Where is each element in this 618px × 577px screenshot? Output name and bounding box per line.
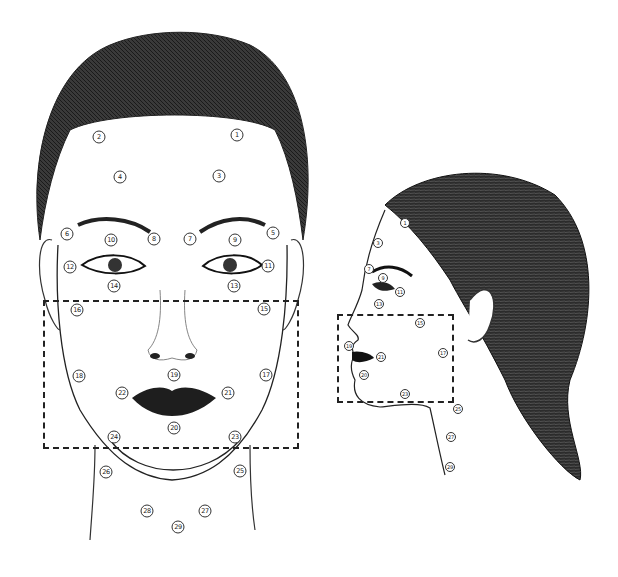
profile-point-9[interactable]: 9 — [378, 273, 388, 283]
front-point-12[interactable]: 12 — [64, 261, 77, 274]
profile-point-17[interactable]: 17 — [438, 348, 448, 358]
profile-lower-face-zone — [337, 314, 454, 403]
front-point-17[interactable]: 17 — [260, 369, 273, 382]
front-point-14[interactable]: 14 — [108, 280, 121, 293]
profile-point-11[interactable]: 11 — [395, 287, 405, 297]
front-point-26[interactable]: 26 — [100, 466, 113, 479]
front-point-28[interactable]: 28 — [141, 505, 154, 518]
front-point-11[interactable]: 11 — [262, 260, 275, 273]
profile-point-23[interactable]: 23 — [400, 389, 410, 399]
profile-point-19[interactable]: 19 — [344, 341, 354, 351]
profile-point-21[interactable]: 21 — [376, 352, 386, 362]
front-point-27[interactable]: 27 — [199, 505, 212, 518]
front-point-24[interactable]: 24 — [108, 431, 121, 444]
front-point-5[interactable]: 5 — [267, 227, 280, 240]
front-point-16[interactable]: 16 — [71, 304, 84, 317]
front-point-2[interactable]: 2 — [93, 131, 106, 144]
front-point-8[interactable]: 8 — [148, 233, 161, 246]
illustration — [0, 0, 618, 577]
front-view — [37, 32, 308, 540]
profile-point-7[interactable]: 7 — [364, 264, 374, 274]
front-point-23[interactable]: 23 — [229, 431, 242, 444]
front-point-22[interactable]: 22 — [116, 387, 129, 400]
front-point-6[interactable]: 6 — [61, 228, 74, 241]
front-point-21[interactable]: 21 — [222, 387, 235, 400]
profile-point-29[interactable]: 29 — [445, 462, 455, 472]
front-point-19[interactable]: 19 — [168, 369, 181, 382]
front-point-1[interactable]: 1 — [231, 129, 244, 142]
front-point-18[interactable]: 18 — [73, 370, 86, 383]
front-point-20[interactable]: 20 — [168, 422, 181, 435]
profile-point-20[interactable]: 20 — [359, 370, 369, 380]
front-point-15[interactable]: 15 — [258, 303, 271, 316]
front-point-4[interactable]: 4 — [114, 171, 127, 184]
front-point-29[interactable]: 29 — [172, 521, 185, 534]
face-point-diagram: 1 2 3 4 5 6 7 8 9 10 11 12 13 14 15 16 1… — [0, 0, 618, 577]
front-point-10[interactable]: 10 — [105, 234, 118, 247]
front-point-7[interactable]: 7 — [184, 233, 197, 246]
front-point-3[interactable]: 3 — [213, 170, 226, 183]
front-point-9[interactable]: 9 — [229, 234, 242, 247]
profile-point-15[interactable]: 15 — [415, 318, 425, 328]
profile-point-1[interactable]: 1 — [400, 218, 410, 228]
profile-point-27[interactable]: 27 — [446, 432, 456, 442]
profile-point-25[interactable]: 25 — [453, 404, 463, 414]
profile-point-13[interactable]: 13 — [374, 299, 384, 309]
profile-point-3[interactable]: 3 — [373, 238, 383, 248]
front-hair — [37, 32, 308, 240]
front-point-13[interactable]: 13 — [228, 280, 241, 293]
front-point-25[interactable]: 25 — [234, 465, 247, 478]
